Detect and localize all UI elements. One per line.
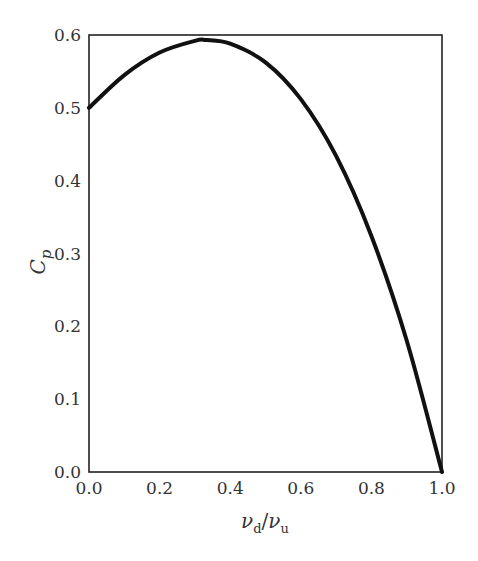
x-tick-labels: 0.00.20.40.60.81.0: [75, 478, 455, 498]
x-tick-label: 1.0: [428, 478, 455, 498]
x-tick-label: 0.8: [358, 478, 385, 498]
y-tick-label: 0.6: [54, 25, 81, 45]
x-tick-label: 0.0: [75, 478, 102, 498]
x-axis-label: νd/νu: [241, 509, 289, 536]
y-tick-label: 0.1: [54, 389, 81, 409]
x-tick-label: 0.6: [287, 478, 314, 498]
x-tick-label: 0.4: [217, 478, 244, 498]
chart: 0.00.10.20.30.40.50.6 0.00.20.40.60.81.0…: [0, 0, 478, 561]
y-tick-label: 0.3: [54, 244, 81, 264]
y-tick-label: 0.4: [54, 171, 81, 191]
x-tick-label: 0.2: [146, 478, 173, 498]
plot-frame: [89, 35, 442, 472]
cp-curve: [89, 40, 442, 472]
y-tick-labels: 0.00.10.20.30.40.50.6: [54, 25, 81, 482]
y-tick-label: 0.2: [54, 316, 81, 336]
y-tick-label: 0.5: [54, 98, 81, 118]
y-axis-label: Cp: [26, 249, 55, 274]
